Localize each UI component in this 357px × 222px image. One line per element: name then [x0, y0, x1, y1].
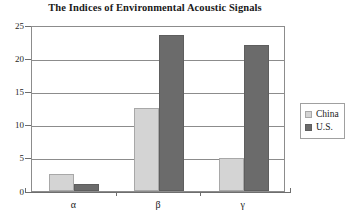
y-axis-tick	[25, 26, 31, 27]
bar-us-1	[159, 35, 184, 191]
x-axis-right-cap	[290, 188, 291, 193]
y-axis-tick-label: 5	[0, 154, 24, 163]
y-axis-tick	[25, 92, 31, 93]
x-axis-tick-label: α	[53, 199, 93, 211]
x-axis-tick	[116, 192, 117, 196]
y-axis-tick-label: 20	[0, 55, 24, 64]
bar-china-0	[49, 174, 74, 191]
chart-title: The Indices of Environmental Acoustic Si…	[0, 2, 310, 13]
plot-area	[31, 26, 285, 192]
y-axis-tick	[25, 125, 31, 126]
y-axis: 0510152025	[0, 26, 24, 192]
y-axis-tick	[25, 158, 31, 159]
bar-us-0	[74, 184, 99, 191]
legend-item[interactable]: U.S.	[305, 121, 340, 134]
y-axis-tick	[25, 192, 31, 193]
chart-legend: ChinaU.S.	[300, 103, 345, 139]
y-axis-tick-label: 10	[0, 121, 24, 130]
y-axis-tick	[25, 59, 31, 60]
x-axis-tick-label: β	[138, 199, 178, 211]
legend-item[interactable]: China	[305, 108, 340, 121]
y-axis-tick-label: 15	[0, 88, 24, 97]
bar-us-2	[244, 45, 269, 191]
bar-china-2	[219, 158, 244, 191]
x-axis-tick	[200, 192, 201, 196]
y-axis-tick-label: 25	[0, 22, 24, 31]
x-axis-line	[25, 192, 291, 193]
legend-label: China	[316, 109, 339, 120]
legend-swatch-icon	[305, 124, 312, 131]
bar-china-1	[134, 108, 159, 191]
y-axis-tick-label: 0	[0, 188, 24, 197]
legend-swatch-icon	[305, 111, 312, 118]
legend-label: U.S.	[316, 122, 333, 133]
x-axis-tick-label: γ	[223, 199, 263, 211]
chart-figure: The Indices of Environmental Acoustic Si…	[0, 0, 357, 222]
